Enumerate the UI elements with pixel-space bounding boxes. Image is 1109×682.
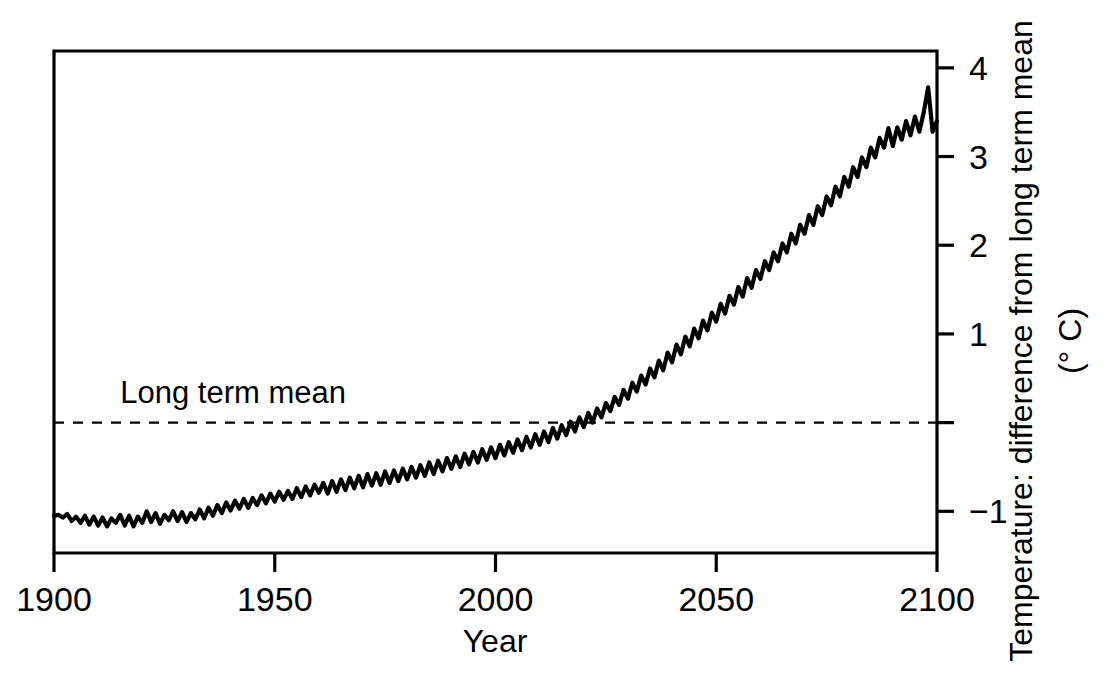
y-tick-label-2: 2 xyxy=(969,226,988,264)
x-tick-label-2100: 2100 xyxy=(899,580,975,618)
x-axis-title: Year xyxy=(463,623,528,659)
x-tick-label-2000: 2000 xyxy=(458,580,534,618)
temperature-anomaly-chart: −11234 19001950200020502100 Long term me… xyxy=(0,0,1109,682)
series-line-0 xyxy=(54,87,937,526)
x-tick-label-1950: 1950 xyxy=(237,580,313,618)
data-series-group xyxy=(54,87,937,526)
y-tick-label-1: 1 xyxy=(969,315,988,353)
y-tick-label-3: 3 xyxy=(969,138,988,176)
y-axis-tick-labels: −11234 xyxy=(969,49,1008,530)
y-tick-label-4: 4 xyxy=(969,49,988,87)
y-axis-units-label: (° C) xyxy=(1052,308,1088,374)
long-term-mean-label: Long term mean xyxy=(120,375,346,410)
x-axis-ticks xyxy=(54,553,937,572)
y-tick-label--1: −1 xyxy=(969,492,1008,530)
y-axis-ticks xyxy=(937,68,954,511)
chart-canvas: −11234 19001950200020502100 Long term me… xyxy=(0,0,1109,682)
y-axis-title: Temperature: difference from long term m… xyxy=(1003,20,1039,661)
plot-frame xyxy=(54,51,937,553)
x-tick-label-2050: 2050 xyxy=(678,580,754,618)
x-axis-tick-labels: 19001950200020502100 xyxy=(16,580,975,618)
x-tick-label-1900: 1900 xyxy=(16,580,92,618)
annotations-group: Long term mean xyxy=(120,375,346,410)
